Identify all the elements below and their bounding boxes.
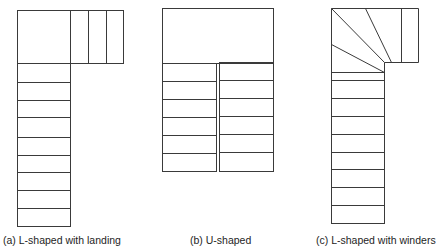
- panel-c-l-shaped-with-winders: [332, 9, 419, 224]
- outline: [71, 11, 124, 64]
- staircase-drawings: [0, 0, 439, 250]
- outline: [332, 73, 385, 224]
- caption-u-shaped: (b) U-shaped: [190, 234, 251, 246]
- tread-line: [332, 45, 385, 73]
- staircase-figure: (a) L-shaped with landing (b) U-shaped (…: [0, 0, 439, 250]
- panel-a-l-shaped-with-landing: [18, 11, 124, 227]
- caption-l-shaped-with-landing: (a) L-shaped with landing: [3, 234, 121, 246]
- outline: [18, 11, 71, 64]
- panel-b-u-shaped: [163, 9, 274, 172]
- outline: [163, 9, 274, 64]
- tread-line: [332, 9, 385, 63]
- tread-line: [366, 9, 392, 63]
- outline: [18, 64, 71, 227]
- caption-l-shaped-with-winders: (c) L-shaped with winders: [316, 234, 436, 246]
